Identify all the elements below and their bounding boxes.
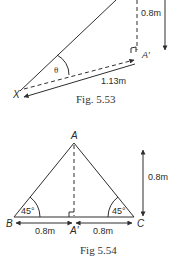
- label-theta: θ: [54, 65, 58, 75]
- label-a: A: [70, 130, 78, 141]
- angle-arc-theta: [57, 55, 69, 75]
- figure-5-54: A B C A′ 45° 45° 0.8m 0.8m 0.8m Fig 5.54: [6, 130, 168, 256]
- label-a-prime: A′: [69, 225, 80, 236]
- label-angle-b: 45°: [21, 206, 35, 216]
- right-angle-marker: [69, 212, 74, 217]
- label-left-base: 0.8m: [35, 226, 55, 236]
- label-angle-c: 45°: [112, 206, 126, 216]
- figure-5-53: X A′ θ 1.13m 0.8m Fig. 5.53: [12, 0, 165, 105]
- right-angle-marker: [131, 47, 136, 53]
- label-0-8m-vertical: 0.8m: [141, 8, 161, 18]
- label-c: C: [137, 218, 145, 229]
- caption-fig-5-54: Fig 5.54: [80, 244, 117, 256]
- label-1-13m: 1.13m: [101, 76, 126, 86]
- diagram-canvas: X A′ θ 1.13m 0.8m Fig. 5.53 A B C A′ 45°…: [0, 0, 182, 270]
- label-b: B: [6, 218, 13, 229]
- label-x: X: [12, 89, 20, 100]
- label-height: 0.8m: [148, 172, 168, 182]
- label-a-prime: A′: [141, 50, 150, 60]
- label-right-base: 0.8m: [93, 226, 113, 236]
- caption-fig-5-53: Fig. 5.53: [76, 93, 116, 105]
